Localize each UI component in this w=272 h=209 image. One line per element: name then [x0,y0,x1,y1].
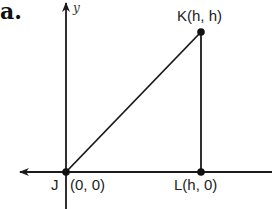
point-j-letter: J [51,176,59,193]
point-k [197,28,205,36]
point-k-label: K(h, h) [177,7,222,24]
point-j-coords: (0, 0) [70,176,105,193]
diagram-canvas [0,0,272,209]
y-axis-label: y [73,1,80,15]
coordinate-diagram: a. y J (0, 0) K(h, h) L(h, 0) [0,0,272,209]
segment-jk [66,32,201,172]
point-j [62,168,70,176]
point-l-label: L(h, 0) [174,176,217,193]
point-l [197,168,205,176]
